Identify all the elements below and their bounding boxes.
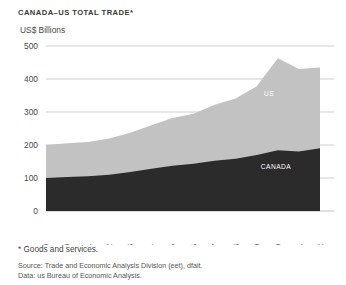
y-tick-label: 100	[24, 173, 38, 183]
y-tick-label: 200	[24, 140, 38, 150]
series-label-us: US	[264, 90, 274, 97]
x-tick-label: 1997	[211, 244, 220, 245]
x-tick-label: 1998	[232, 244, 241, 245]
x-tick-label: 2002	[316, 244, 325, 245]
x-tick-label: 1994	[147, 244, 156, 245]
footnote-goods-and-services: * Goods and services.	[18, 245, 98, 254]
series-label-canada: CANADA	[261, 163, 292, 170]
area-chart-plot: 0100200300400500 19891990199119921993199…	[0, 0, 346, 245]
x-tick-label: 1993	[126, 244, 135, 245]
x-tick-label: 2001	[295, 244, 304, 245]
y-tick-labels-group: 0100200300400500	[24, 41, 38, 216]
chart-figure: CANADA–US TOTAL TRADE* US$ Billions 0100…	[0, 0, 346, 285]
x-tick-label: 1999	[253, 244, 262, 245]
x-tick-label: 1996	[190, 244, 199, 245]
x-tick-label: 1992	[105, 244, 114, 245]
x-tick-label: 1995	[168, 244, 177, 245]
x-tick-label: 2000	[274, 244, 283, 245]
areas-group	[46, 58, 320, 211]
source-attribution: Source: Trade and Economic Analysis Divi…	[18, 261, 203, 270]
data-attribution: Data: us Bureau of Economic Analysis.	[18, 271, 142, 280]
y-tick-label: 500	[24, 41, 38, 51]
y-tick-label: 0	[33, 206, 38, 216]
y-tick-label: 300	[24, 107, 38, 117]
y-tick-label: 400	[24, 74, 38, 84]
